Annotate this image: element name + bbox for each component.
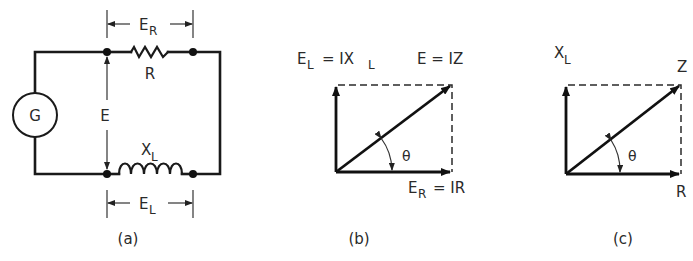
xl-label-main: X — [141, 141, 151, 159]
xl-main-c: X — [554, 44, 564, 62]
el-label-sub: L — [149, 203, 156, 217]
left-wire-bottom — [35, 137, 107, 174]
source-voltage-label: E — [100, 107, 109, 125]
resistor-label: R — [145, 65, 155, 83]
er-eq-rhs: = IR — [433, 179, 465, 197]
el-eq-main: E — [297, 50, 306, 68]
caption-a: (a) — [118, 230, 139, 248]
el-eq-rhs: = IX — [322, 50, 354, 68]
node-top-right — [189, 48, 197, 56]
theta-label-b: θ — [402, 148, 411, 164]
r-label: R — [676, 183, 686, 201]
theta-label-c: θ — [628, 148, 637, 164]
z-label: Z — [677, 58, 687, 76]
e-eq-label: E = IZ — [417, 50, 463, 68]
panel-b-voltage-phasor: θ E L = IX L E = IZ E R = IR (b) — [297, 50, 465, 248]
er-label-sub: R — [149, 24, 157, 38]
er-eq-sub: R — [418, 187, 426, 201]
caption-c: (c) — [613, 230, 633, 248]
xl-sub-c: L — [564, 53, 571, 67]
caption-b: (b) — [348, 230, 369, 248]
panel-a-circuit: G R E E R X L E L (a) — [13, 10, 220, 248]
er-label-main: E — [139, 16, 148, 34]
rl-circuit-figure: G R E E R X L E L (a) θ E L = IX L E = I… — [0, 0, 693, 261]
theta-arc — [381, 138, 392, 170]
node-bottom-right — [189, 170, 197, 178]
inductor-symbol — [119, 164, 182, 175]
el-eq-sub: L — [307, 58, 314, 72]
er-eq-main: E — [408, 179, 417, 197]
generator-label: G — [29, 107, 41, 125]
el-eq-rhs-sub: L — [368, 58, 375, 72]
xl-label-sub: L — [151, 150, 158, 164]
node-bottom-left — [103, 170, 111, 178]
theta-arc-c — [611, 140, 620, 172]
el-label-main: E — [139, 195, 148, 213]
resistor-symbol — [131, 47, 168, 57]
e-vector — [336, 86, 450, 172]
right-wire — [193, 52, 220, 174]
panel-c-impedance-phasor: θ X L Z R (c) — [554, 44, 687, 248]
node-top-left — [103, 48, 111, 56]
left-wire — [35, 52, 107, 93]
z-vector — [566, 86, 679, 174]
